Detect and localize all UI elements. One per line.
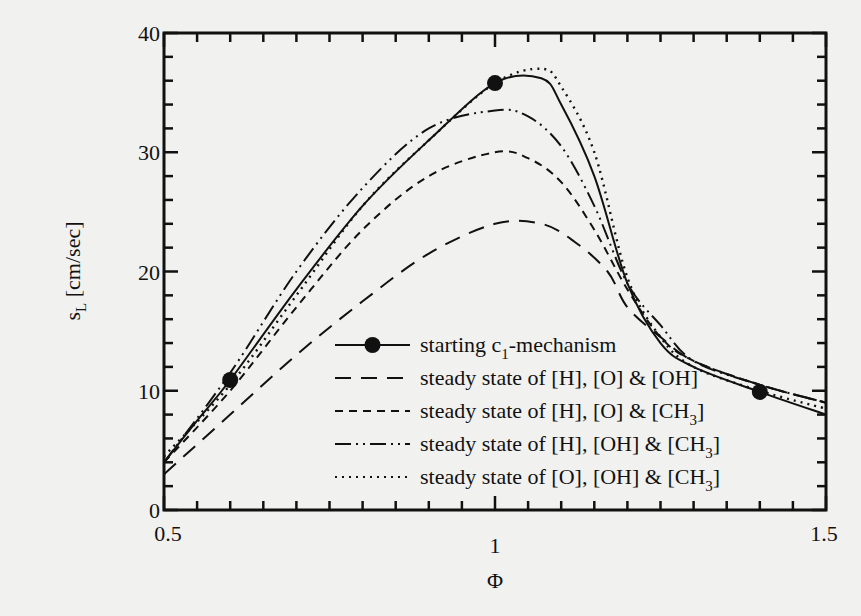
y-axis-label-unit: [cm/sec] [60,222,85,303]
x-axis-label: Φ [487,568,503,593]
y-tick-label: 20 [138,260,160,285]
legend-entry-label: steady state of [H], [OH] & [CH3] [420,431,720,461]
x-tick-label: 1 [490,533,501,558]
y-tick-label: 30 [138,140,160,165]
y-tick-label: 0 [149,498,160,523]
legend: starting c1-mechanismsteady state of [H]… [335,332,720,494]
y-axis-label-main: s [60,312,85,321]
legend-entry-label: steady state of [H], [O] & [CH3] [420,398,704,428]
y-tick-label: 10 [138,379,160,404]
y-axis-label: sL [cm/sec] [60,222,89,321]
x-tick-label: 1.5 [810,521,838,546]
legend-entry-label: steady state of [O], [OH] & [CH3] [420,464,720,494]
legend-marker [365,337,381,353]
chart: 0.511.5010203040 starting c1-mechanismst… [0,0,861,616]
x-tick-label: 0.5 [154,521,182,546]
legend-entry-label: starting c1-mechanism [420,332,616,362]
plot-canvas: 0.511.5010203040 starting c1-mechanismst… [0,0,861,616]
legend-entry-label: steady state of [H], [O] & [OH] [420,365,698,390]
y-axis-label-subscript: L [73,303,89,312]
y-tick-label: 40 [138,21,160,46]
svg-text:sL [cm/sec]: sL [cm/sec] [60,222,89,321]
series-marker [487,75,503,91]
